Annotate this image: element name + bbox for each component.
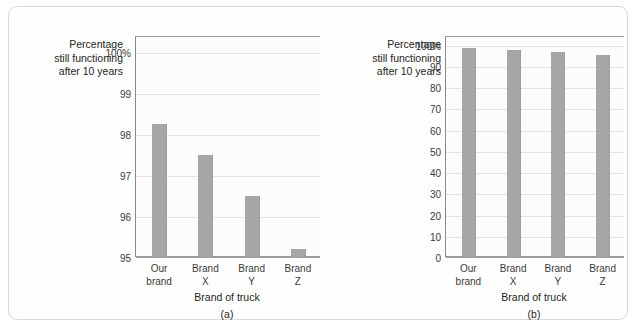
- bar: [291, 249, 306, 257]
- y-axis-tick-label: 80: [430, 83, 441, 94]
- y-axis-tick-label: 0: [435, 253, 441, 264]
- bar: [462, 48, 476, 257]
- y-axis-tick-label: 97: [120, 171, 131, 182]
- y-axis-tick-label: 20: [430, 210, 441, 221]
- x-axis-tick-label: Brand Z: [573, 263, 633, 288]
- figure-container: Percentage still functioning after 10 ye…: [8, 6, 628, 320]
- y-axis-tick-label: 70: [430, 104, 441, 115]
- bar: [507, 50, 521, 257]
- plot-area-b: 0102030405060708090100%Our brandBrand XB…: [445, 36, 624, 257]
- bar: [198, 155, 213, 257]
- plot-inner-a: 9596979899100%Our brandBrand XBrand YBra…: [136, 37, 320, 257]
- y-axis-tick-label: 100%: [415, 40, 441, 51]
- chart-panel-a: Percentage still functioning after 10 ye…: [9, 7, 321, 321]
- y-axis-tick-label: 50: [430, 146, 441, 157]
- y-axis-tick-label: 10: [430, 231, 441, 242]
- y-axis-tick-label: 96: [120, 212, 131, 223]
- y-axis-tick-label: 40: [430, 168, 441, 179]
- plot-area-a: 9596979899100%Our brandBrand XBrand YBra…: [135, 36, 320, 257]
- y-axis-tick-label: 90: [430, 61, 441, 72]
- x-axis-caption-a: Brand of truck: [135, 291, 319, 303]
- gridline: [136, 53, 320, 54]
- y-axis-tick-label: 60: [430, 125, 441, 136]
- plot-inner-b: 0102030405060708090100%Our brandBrand XB…: [446, 37, 624, 257]
- bar: [551, 52, 565, 257]
- y-axis-tick-label: 99: [120, 89, 131, 100]
- bar: [596, 55, 610, 257]
- bar: [152, 124, 167, 257]
- bar: [245, 196, 260, 257]
- y-axis-tick-label: 100%: [105, 48, 131, 59]
- chart-panel-b: Percentage still functioning after 10 ye…: [319, 7, 629, 321]
- y-axis-tick-label: 95: [120, 253, 131, 264]
- panel-letter-a: (a): [135, 308, 319, 320]
- x-axis-caption-b: Brand of truck: [445, 291, 623, 303]
- panel-letter-b: (b): [445, 308, 623, 320]
- gridline: [446, 46, 624, 47]
- y-axis-tick-label: 30: [430, 189, 441, 200]
- gridline: [136, 94, 320, 95]
- y-axis-tick-label: 98: [120, 130, 131, 141]
